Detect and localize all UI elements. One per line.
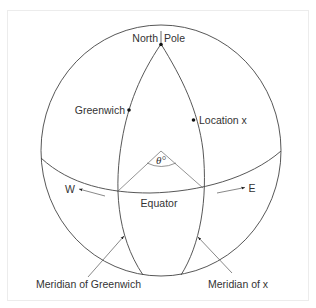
sphere-outline [41,25,281,276]
east-arrow-icon [217,188,245,194]
meridian-x-line [161,44,204,275]
west-arrow-icon [79,189,105,196]
east-label: E [248,182,255,194]
angle-theta-label: θ° [156,154,166,166]
meridian-greenwich-line [118,44,161,275]
meridian-greenwich-label: Meridian of Greenwich [36,278,141,290]
location-x-label: Location x [199,114,248,126]
north-pole-dot [159,43,163,47]
pole-label: Pole [164,32,185,44]
globe-diagram: North Pole Greenwich Location x θ° W E E… [0,0,316,308]
location-x-dot [192,118,196,122]
north-label: North [132,32,158,44]
meridian-x-label: Meridian of x [208,278,269,290]
angle-line-left [117,151,161,192]
greenwich-dot [127,108,131,112]
angle-line-right [161,151,203,188]
meridian-greenwich-pointer-icon [88,236,124,277]
greenwich-label: Greenwich [75,104,125,116]
west-label: W [65,183,75,195]
equator-label: Equator [141,197,178,209]
